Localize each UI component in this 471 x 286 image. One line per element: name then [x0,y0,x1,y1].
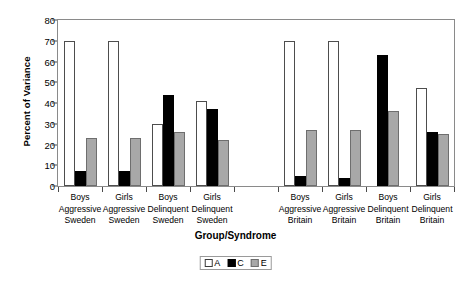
bar-group [146,20,190,186]
bar-c [207,109,218,186]
bar-a [416,88,427,186]
legend-label: E [261,258,267,268]
bar-c [427,132,438,186]
bar-c [295,176,306,186]
y-axis-tick-mark [52,40,57,41]
x-axis-title: Group/Syndrome [0,230,471,241]
bar-group [366,20,410,186]
x-axis-label-line: Britain [402,215,462,227]
y-axis-tick-label: 0 [0,181,55,192]
y-axis-tick-label: 80 [0,15,55,26]
legend-swatch-icon [251,259,259,267]
x-axis-label-line: Girls [402,192,462,204]
y-axis-tick-mark [52,61,57,62]
bar-e [174,132,185,186]
bar-c [119,171,130,186]
legend-item-a: A [204,258,220,268]
y-axis-tick-mark [52,103,57,104]
y-axis-tick-label: 20 [0,139,55,150]
bar-chart: Percent of Variance 01020304050607080 Bo… [0,0,471,286]
y-axis-tick-mark [52,186,57,187]
chart-legend: ACE [199,256,272,270]
y-axis-tick-label: 40 [0,98,55,109]
bar-group [58,20,102,186]
bar-a [284,41,295,186]
bar-a [64,41,75,186]
bar-group [234,20,278,186]
bar-e [86,138,97,186]
bar-e [306,130,317,186]
legend-label: C [237,258,244,268]
bar-group [190,20,234,186]
y-axis-tick-mark [52,165,57,166]
bar-c [75,171,86,186]
x-axis-label-line: Delinquent [402,204,462,216]
y-axis-tick-mark [52,144,57,145]
y-axis-tick-label: 50 [0,77,55,88]
bar-c [377,55,388,186]
bar-a [108,41,119,186]
bar-a [328,41,339,186]
bars-layer [58,20,454,186]
bar-e [218,140,229,186]
legend-item-e: E [251,258,267,268]
bar-group [102,20,146,186]
bar-e [388,111,399,186]
y-axis-tick-label: 10 [0,160,55,171]
y-axis-tick-mark [52,20,57,21]
x-axis-category-label: GirlsDelinquentBritain [402,192,462,227]
legend-item-c: C [227,258,244,268]
y-axis-tick-label: 60 [0,56,55,67]
legend-swatch-icon [204,259,212,267]
bar-a [196,101,207,186]
y-axis-tick-mark [52,123,57,124]
bar-e [350,130,361,186]
legend-label: A [214,258,220,268]
bar-group [278,20,322,186]
bar-group [410,20,454,186]
bar-e [130,138,141,186]
bar-group [322,20,366,186]
bar-e [438,134,449,186]
bar-c [163,95,174,186]
bar-a [152,124,163,186]
y-axis-tick-label: 70 [0,35,55,46]
legend-swatch-icon [227,259,235,267]
y-axis-tick-mark [52,82,57,83]
y-axis-tick-label: 30 [0,118,55,129]
bar-c [339,178,350,186]
